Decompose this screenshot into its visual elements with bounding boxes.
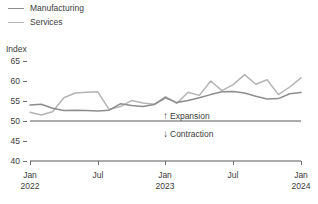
x-tick-mark-jan-2022 (30, 161, 31, 165)
x-tick-label-jan-2023: Jan 2023 (145, 170, 185, 191)
x-tick-mark-jul-2022 (98, 161, 99, 165)
pmi-index-chart: Manufacturing Services Index 65 60 55 50… (0, 0, 318, 204)
x-tick-year-2: 2023 (145, 181, 185, 191)
x-tick-label-jul-2022: Jul (78, 170, 118, 181)
line-series-services (30, 75, 301, 115)
x-tick-month-3: Jul (228, 170, 239, 180)
arrow-down-icon: ↓ (161, 128, 170, 139)
x-tick-month-0: Jan (23, 170, 37, 180)
x-tick-label-jul-2023: Jul (213, 170, 253, 181)
x-tick-month-4: Jan (294, 170, 308, 180)
x-tick-year-0: 2022 (10, 181, 50, 191)
x-tick-mark-jul-2023 (233, 161, 234, 165)
x-tick-mark-jan-2024 (301, 161, 302, 165)
annotation-contraction-label: Contraction (170, 129, 213, 139)
x-tick-year-4: 2024 (281, 181, 318, 191)
annotation-expansion-label: Expansion (170, 111, 210, 121)
x-tick-month-1: Jul (93, 170, 104, 180)
x-tick-mark-jan-2023 (165, 161, 166, 165)
x-tick-label-jan-2024: Jan 2024 (281, 170, 318, 191)
annotation-expansion: ↑Expansion (161, 110, 210, 121)
arrow-up-icon: ↑ (161, 110, 170, 121)
annotation-contraction: ↓Contraction (161, 128, 213, 139)
x-tick-month-2: Jan (158, 170, 172, 180)
x-tick-label-jan-2022: Jan 2022 (10, 170, 50, 191)
